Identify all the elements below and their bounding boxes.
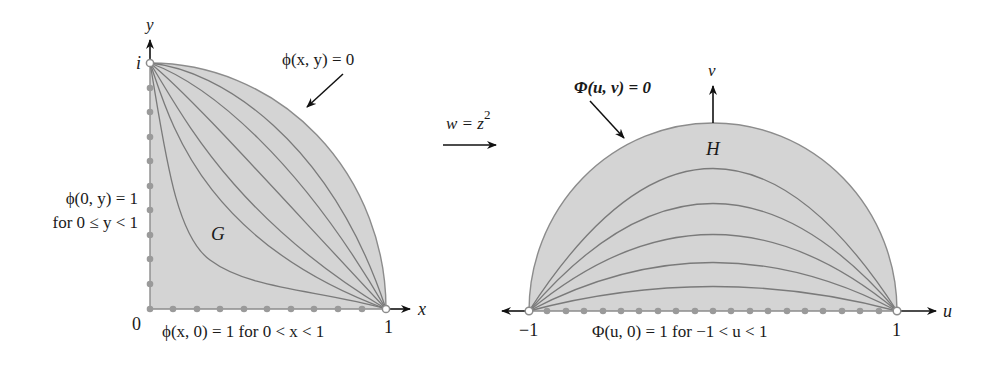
u-axis-label: u (943, 301, 952, 321)
point-i (146, 59, 153, 66)
bottom-edge-condition-H: Φ(u, 0) = 1 for −1 < u < 1 (592, 322, 767, 341)
conformal-mapping-diagram: y i x 0 1 G ϕ(x, y) = 0 ϕ(0, y) = 1 for … (0, 0, 983, 366)
left-edge-condition-2: for 0 ≤ y < 1 (53, 213, 139, 232)
boundary-label-phi: ϕ(x, y) = 0 (282, 50, 354, 69)
region-G (150, 63, 386, 309)
left-edge-condition-1: ϕ(0, y) = 1 (66, 189, 138, 208)
boundary-pointer-arrow-left (307, 74, 343, 107)
origin-label: 0 (132, 314, 141, 334)
mapping-w-equals-z-squared: w = z2 (443, 107, 496, 145)
y-tick-label-i: i (136, 53, 141, 73)
mapping-label: w = z2 (446, 107, 490, 133)
region-label-H: H (705, 138, 721, 159)
dots-x-axis (170, 306, 366, 313)
point-minus-1 (525, 307, 533, 315)
region-label-G: G (211, 223, 225, 244)
x-axis-label: x (417, 299, 426, 319)
boundary-pointer-arrow-right (590, 101, 624, 138)
point-1 (382, 305, 389, 312)
y-axis-label: y (144, 15, 154, 34)
x-tick-label-1: 1 (384, 317, 393, 337)
tick-label-plus-1: 1 (892, 320, 901, 340)
right-figure-domain-H: v u −1 1 H Φ(u, v) = 0 Φ(u, 0) = 1 for −… (502, 61, 952, 341)
left-figure-domain-G: y i x 0 1 G ϕ(x, y) = 0 ϕ(0, y) = 1 for … (53, 15, 427, 341)
v-axis-label: v (708, 61, 716, 80)
tick-label-minus-1: −1 (519, 320, 538, 340)
bottom-edge-condition: ϕ(x, 0) = 1 for 0 < x < 1 (162, 322, 324, 341)
point-plus-1 (893, 307, 901, 315)
boundary-label-Phi: Φ(u, v) = 0 (574, 78, 651, 97)
